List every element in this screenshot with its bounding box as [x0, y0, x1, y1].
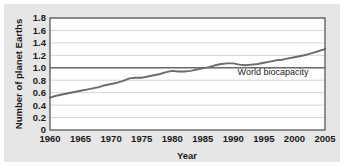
x-tick-label: 1980: [162, 133, 183, 144]
x-axis-title: Year: [177, 150, 197, 161]
x-tick-label: 1990: [223, 133, 244, 144]
x-tick-label: 2005: [314, 133, 336, 144]
y-tick-label: 1.4: [33, 37, 47, 48]
y-tick-label: 0.2: [33, 112, 46, 123]
y-tick-label: 0.8: [33, 75, 46, 86]
y-tick-label: 0.4: [33, 100, 47, 111]
x-tick-label: 1965: [70, 133, 92, 144]
x-tick-label: 1975: [131, 133, 153, 144]
x-tick-label: 2000: [284, 133, 305, 144]
x-tick-label: 1960: [39, 133, 60, 144]
x-tick-label: 1985: [192, 133, 214, 144]
line-chart: 00.20.40.60.81.01.21.41.61.8 19601965197…: [0, 0, 344, 166]
x-tick-label: 1995: [253, 133, 275, 144]
y-tick-label: 1.6: [33, 25, 46, 36]
y-tick-label: 0.6: [33, 87, 46, 98]
x-axis-tick-labels: 1960196519701975198019851990199520002005: [39, 133, 336, 144]
y-axis-title: Number of planet Earths: [13, 19, 24, 129]
chart-figure: 00.20.40.60.81.01.21.41.61.8 19601965197…: [0, 0, 344, 166]
y-tick-label: 1.2: [33, 50, 46, 61]
y-tick-label: 1.8: [33, 12, 46, 23]
y-tick-label: 1.0: [33, 62, 46, 73]
plot-container: 00.20.40.60.81.01.21.41.61.8 19601965197…: [0, 0, 344, 166]
y-axis-tick-labels: 00.20.40.60.81.01.21.41.61.8: [33, 12, 47, 135]
world-biocapacity-annotation: World biocapacity: [238, 67, 309, 77]
x-tick-label: 1970: [101, 133, 122, 144]
